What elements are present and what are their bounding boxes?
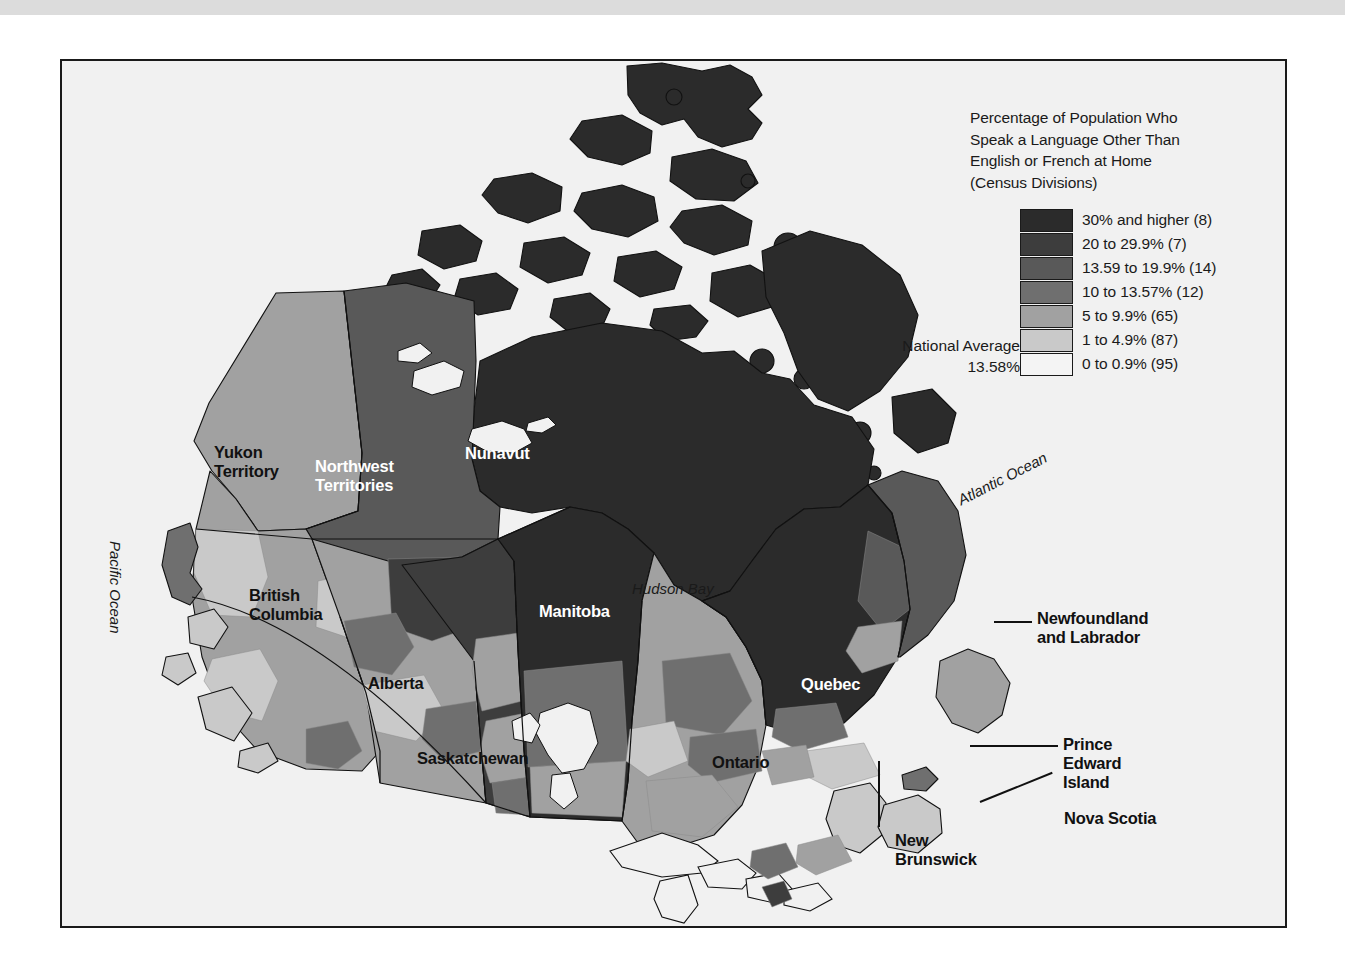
legend-label: 13.59 to 19.9% (14) <box>1082 259 1216 277</box>
legend-label: 10 to 13.57% (12) <box>1082 283 1204 301</box>
legend-swatch-13-59-to-19-9 <box>1020 257 1073 280</box>
map-label-new-brunswick: New Brunswick <box>895 831 977 869</box>
legend-label: 1 to 4.9% (87) <box>1082 331 1178 349</box>
legend-swatch-1-to-4-9 <box>1020 329 1073 352</box>
legend-label: 5 to 9.9% (65) <box>1082 307 1178 325</box>
map-page: .lnd { stroke:#111; stroke-width:1.1; st… <box>0 0 1345 978</box>
map-label-manitoba: Manitoba <box>539 602 610 621</box>
map-label-nunavut: Nunavut <box>465 444 530 463</box>
map-label-prince-edward-island: Prince Edward Island <box>1063 735 1121 792</box>
water-label-hudson-bay: Hudson Bay <box>632 580 714 597</box>
legend-swatch-5-to-9-9 <box>1020 305 1073 328</box>
legend-swatch-20-to-29-9 <box>1020 233 1073 256</box>
legend-row: 10 to 13.57% (12) <box>1020 280 1270 304</box>
map-label-newfoundland-and-labrador: Newfoundland and Labrador <box>1037 609 1148 647</box>
legend-swatch-30-and-higher <box>1020 209 1073 232</box>
legend-row: 0 to 0.9% (95) <box>1020 352 1270 376</box>
water-label-pacific-ocean: Pacific Ocean <box>107 541 124 634</box>
national-average-annotation: National Average 13.58% <box>830 335 1020 377</box>
map-label-british-columbia: British Columbia <box>249 586 323 624</box>
legend-label: 0 to 0.9% (95) <box>1082 355 1178 373</box>
legend-label: 20 to 29.9% (7) <box>1082 235 1186 253</box>
map-label-nova-scotia: Nova Scotia <box>1064 809 1156 828</box>
legend-swatch-10-to-13-57 <box>1020 281 1073 304</box>
legend-row: 30% and higher (8) <box>1020 208 1270 232</box>
map-label-northwest-territories: Northwest Territories <box>315 457 394 495</box>
legend-row: 20 to 29.9% (7) <box>1020 232 1270 256</box>
legend-row: 13.59 to 19.9% (14) <box>1020 256 1270 280</box>
map-frame: .lnd { stroke:#111; stroke-width:1.1; st… <box>60 59 1287 928</box>
legend-title: Percentage of Population Who Speak a Lan… <box>970 107 1270 193</box>
leader-line-new-brunswick <box>878 761 880 827</box>
map-label-saskatchewan: Saskatchewan <box>417 749 528 768</box>
top-gray-bar <box>0 0 1345 15</box>
legend-row: 5 to 9.9% (65) <box>1020 304 1270 328</box>
map-label-ontario: Ontario <box>712 753 769 772</box>
leader-line-newfoundland <box>994 621 1032 623</box>
map-label-yukon-territory: Yukon Territory <box>214 443 279 481</box>
legend-class-list: 30% and higher (8) 20 to 29.9% (7) 13.59… <box>1020 208 1270 376</box>
legend: Percentage of Population Who Speak a Lan… <box>970 107 1270 193</box>
legend-label: 30% and higher (8) <box>1082 211 1212 229</box>
map-label-quebec: Quebec <box>801 675 860 694</box>
leader-line-prince-edward-island <box>970 745 1058 747</box>
legend-row: 1 to 4.9% (87) <box>1020 328 1270 352</box>
legend-swatch-0-to-0-9 <box>1020 353 1073 376</box>
map-label-alberta: Alberta <box>368 674 423 693</box>
